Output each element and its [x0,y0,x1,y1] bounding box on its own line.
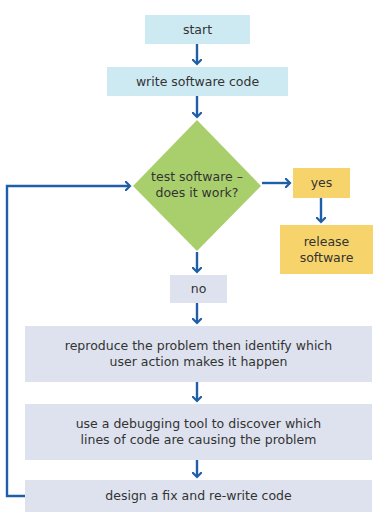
release-label-line2: software [300,250,354,266]
release-software-node: release software [280,225,373,274]
debug-label-line1: use a debugging tool to discover which [76,416,322,432]
design-fix-label: design a fix and re-write code [105,488,291,504]
decision-label-line2: does it work? [137,185,257,201]
design-fix-node: design a fix and re-write code [25,480,372,512]
reproduce-problem-node: reproduce the problem then identify whic… [25,326,372,382]
start-label: start [183,22,212,38]
yes-label: yes [311,175,333,191]
start-node: start [145,15,250,44]
write-code-label: write software code [136,74,259,90]
decision-label-line1: test software – [137,169,257,185]
write-code-node: write software code [107,67,288,96]
decision-label: test software – does it work? [137,169,257,201]
no-node: no [170,275,227,303]
no-label: no [191,281,207,297]
release-label-line1: release [304,234,350,250]
reproduce-label-line2: user action makes it happen [110,354,288,370]
yes-node: yes [293,168,350,198]
debug-label-line2: lines of code are causing the problem [81,432,317,448]
debugging-tool-node: use a debugging tool to discover which l… [25,404,372,460]
reproduce-label-line1: reproduce the problem then identify whic… [65,338,332,354]
